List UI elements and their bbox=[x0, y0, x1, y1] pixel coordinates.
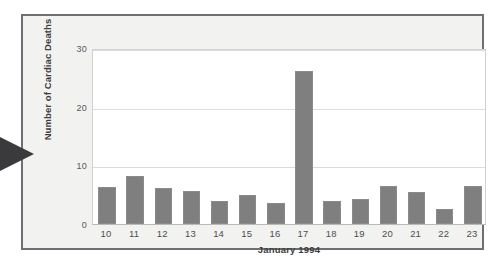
bar bbox=[295, 71, 312, 224]
x-tick-label: 23 bbox=[458, 228, 486, 239]
bar bbox=[352, 199, 369, 224]
bar bbox=[323, 201, 340, 224]
y-tick-label: 20 bbox=[67, 104, 87, 113]
x-tick-label: 18 bbox=[317, 228, 345, 239]
y-tick-label: 30 bbox=[67, 45, 87, 54]
bar bbox=[267, 203, 284, 224]
bar bbox=[239, 195, 256, 224]
x-tick-label: 20 bbox=[373, 228, 401, 239]
bar bbox=[464, 186, 481, 224]
x-axis-ticks: 1011121314151617181920212223 bbox=[92, 228, 486, 242]
left-pointer-arrow-icon bbox=[0, 137, 34, 171]
bars-layer bbox=[93, 50, 485, 224]
x-tick-label: 13 bbox=[176, 228, 204, 239]
x-tick-label: 10 bbox=[92, 228, 120, 239]
bar bbox=[408, 192, 425, 224]
x-tick-label: 11 bbox=[120, 228, 148, 239]
bar bbox=[126, 176, 143, 224]
y-axis-ticks: 0102030 bbox=[64, 49, 87, 225]
y-tick-label: 10 bbox=[67, 162, 87, 171]
x-tick-label: 21 bbox=[402, 228, 430, 239]
x-tick-label: 14 bbox=[205, 228, 233, 239]
bar bbox=[211, 201, 228, 224]
figure-frame: Number of Cardiac Deaths 0102030 1011121… bbox=[21, 14, 484, 250]
bar bbox=[380, 186, 397, 224]
bar bbox=[98, 187, 115, 224]
y-axis-title: Number of Cardiac Deaths bbox=[42, 10, 53, 150]
bar bbox=[155, 188, 172, 224]
x-tick-label: 17 bbox=[289, 228, 317, 239]
x-tick-label: 15 bbox=[233, 228, 261, 239]
x-tick-label: 22 bbox=[430, 228, 458, 239]
x-axis-title: January 1994 bbox=[92, 244, 486, 255]
x-tick-label: 12 bbox=[148, 228, 176, 239]
bar bbox=[183, 191, 200, 224]
x-tick-label: 16 bbox=[261, 228, 289, 239]
bar bbox=[436, 209, 453, 224]
y-tick-label: 0 bbox=[67, 221, 87, 230]
x-tick-label: 19 bbox=[345, 228, 373, 239]
figure-root: Number of Cardiac Deaths 0102030 1011121… bbox=[0, 0, 496, 264]
plot-area bbox=[92, 49, 486, 225]
